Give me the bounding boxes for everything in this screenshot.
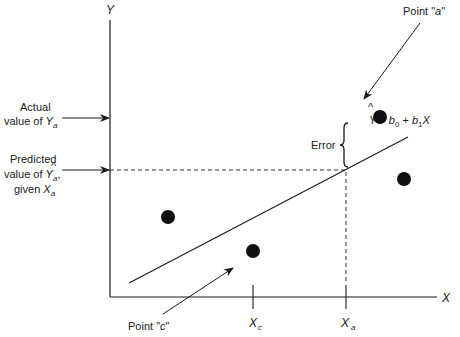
point-a-label: Point "a" bbox=[403, 5, 445, 17]
error-label: Error bbox=[311, 139, 336, 151]
data-point-left bbox=[161, 210, 175, 224]
predicted-hat: ^ bbox=[51, 160, 57, 172]
y-axis-label: Y bbox=[106, 3, 115, 17]
predicted-value-label-line1: Predicted bbox=[10, 153, 56, 165]
actual-value-label-line1: Actual bbox=[20, 101, 51, 113]
tick-label-xc: Xc bbox=[248, 316, 262, 332]
data-point-right bbox=[397, 172, 411, 186]
predicted-value-label-line3: given Xa bbox=[14, 183, 56, 198]
point-c-label: Point "c" bbox=[128, 320, 170, 332]
data-point-c bbox=[246, 244, 260, 258]
data-point-a bbox=[373, 110, 387, 124]
point-c-arrow bbox=[163, 268, 233, 314]
equation-hat: ^ bbox=[368, 101, 374, 113]
regression-line bbox=[129, 137, 408, 283]
tick-label-xa: Xa bbox=[340, 316, 356, 332]
regression-diagram: Y X Xc Xa Y= b0 + b1X ^ Error Point "a" … bbox=[0, 0, 460, 337]
x-axis-label: X bbox=[441, 291, 451, 305]
error-brace bbox=[340, 123, 348, 167]
point-a-arrow bbox=[364, 23, 420, 99]
actual-value-label-line2: value of Ya bbox=[4, 115, 58, 130]
